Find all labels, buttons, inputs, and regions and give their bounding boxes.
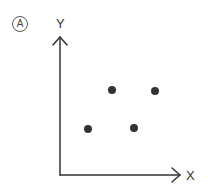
- data-point: [151, 87, 159, 95]
- data-point: [84, 125, 92, 133]
- data-point: [130, 124, 138, 132]
- data-point: [108, 86, 116, 94]
- data-points: [84, 86, 159, 133]
- scatter-plot: [0, 0, 210, 188]
